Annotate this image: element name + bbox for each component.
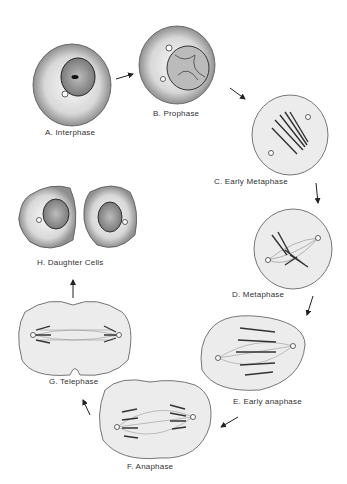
cell-prophase (139, 26, 215, 104)
label-interphase: A. Interphase (45, 128, 95, 137)
cell-anaphase (99, 380, 211, 459)
label-early-anaphase: E. Early anaphase (233, 397, 302, 406)
arrow-b-c (230, 88, 245, 99)
cell-early-metaphase (252, 95, 328, 175)
cell-early-anaphase (201, 316, 305, 391)
label-daughter-cells: H. Daughter Cells (37, 258, 104, 267)
label-prophase: B. Prophase (153, 109, 199, 118)
cell-metaphase (254, 209, 332, 289)
arrow-e-f (221, 417, 238, 427)
arrow-a-b (116, 74, 133, 79)
arrow-d-e (307, 296, 313, 315)
cell-daughter-cells (19, 186, 137, 248)
cell-telophase (19, 301, 131, 375)
arrow-c-d (316, 183, 318, 203)
arrow-f-g (83, 400, 90, 415)
label-telephase: G. Telephase (49, 377, 98, 386)
label-metaphase: D. Metaphase (232, 290, 284, 299)
label-anaphase: F. Anaphase (127, 462, 173, 471)
label-early-metaphase: C. Early Metaphase (214, 177, 288, 186)
mitosis-diagram (0, 0, 347, 484)
cell-interphase (33, 44, 111, 126)
